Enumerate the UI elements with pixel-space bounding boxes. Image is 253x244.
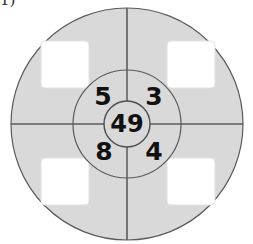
square-bottom-right xyxy=(167,158,215,205)
number-top-right: 3 xyxy=(145,82,162,111)
concentric-wheel-diagram: 5 3 49 8 4 xyxy=(0,0,253,244)
number-top-left: 5 xyxy=(94,82,111,111)
number-bottom-left: 8 xyxy=(95,137,112,166)
square-bottom-left xyxy=(41,158,89,205)
square-top-left xyxy=(41,41,89,88)
number-bottom-right: 4 xyxy=(145,137,162,166)
number-center: 49 xyxy=(110,110,143,138)
diagram-canvas: 1) 5 3 49 8 4 xyxy=(0,0,253,244)
square-top-right xyxy=(167,41,215,88)
